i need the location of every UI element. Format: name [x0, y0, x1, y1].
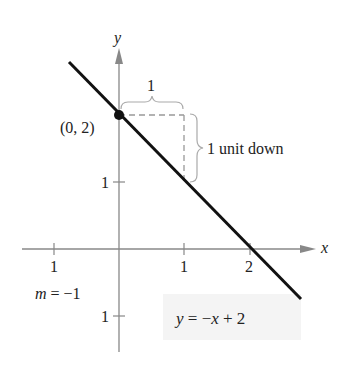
graph-canvas [0, 0, 342, 370]
x-tick-label-1: 1 [180, 259, 188, 275]
slope-diagram: y x 1 1 2 1 1 (0, 2) 1 1 unit down m = −… [0, 0, 342, 370]
x-axis-label: x [321, 240, 328, 256]
y-axis-arrow-icon [115, 48, 123, 64]
y-axis-label: y [114, 30, 121, 46]
slope-rest: = −1 [47, 285, 81, 302]
x-axis-arrow-icon [300, 245, 316, 253]
y-tick-label-neg1: 1 [101, 309, 109, 325]
point-0-2 [114, 110, 124, 120]
x-tick-label-2: 2 [245, 259, 253, 275]
run-brace-icon [121, 96, 183, 109]
rise-brace-icon [190, 114, 203, 182]
y-tick-label-1: 1 [101, 175, 109, 191]
slope-label: m = −1 [35, 286, 81, 302]
slope-m: m [35, 285, 47, 302]
run-label: 1 [147, 78, 155, 94]
rise-label: 1 unit down [207, 141, 283, 157]
x-tick-label-neg1: 1 [50, 259, 58, 275]
equation-label: y = −x + 2 [176, 310, 245, 327]
point-label: (0, 2) [60, 120, 95, 136]
